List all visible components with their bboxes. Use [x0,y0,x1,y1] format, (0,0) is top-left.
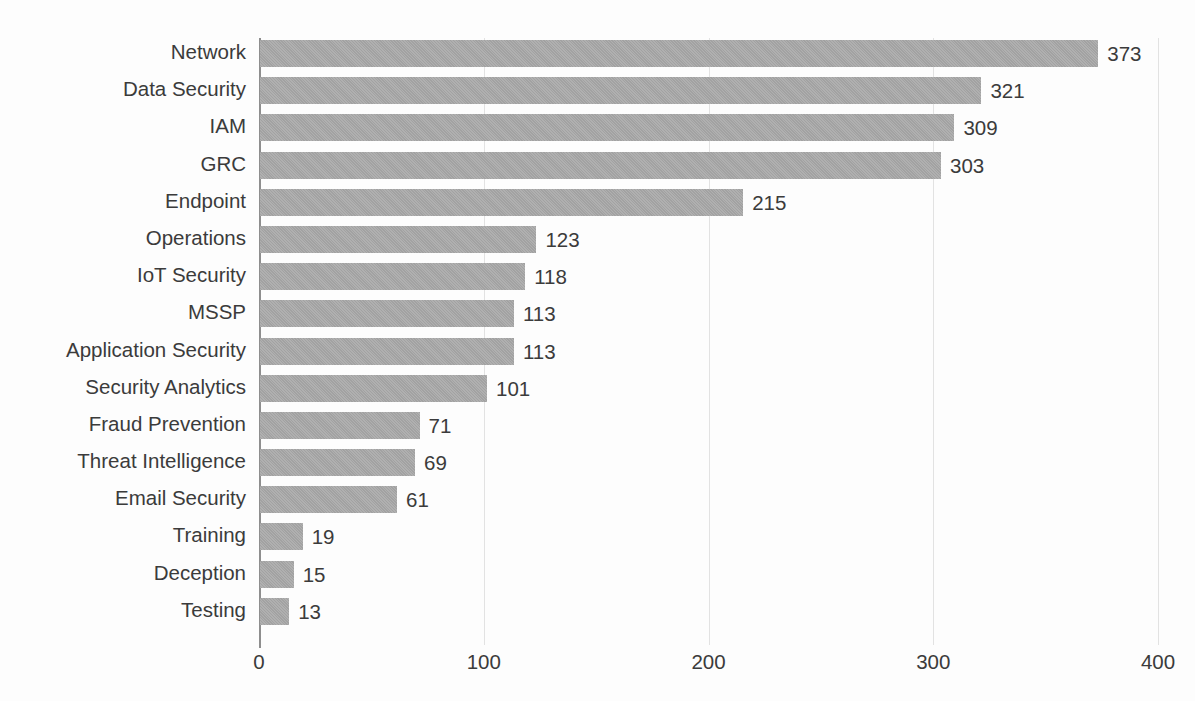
bar-value-label: 215 [743,189,786,216]
category-label: Fraud Prevention [89,410,260,437]
category-label: Endpoint [165,187,260,214]
bar-value-label: 303 [941,152,984,179]
bar[interactable] [260,523,303,550]
bar-row: Application Security113 [0,336,1195,373]
bar-value-label: 69 [415,449,447,476]
category-label: Testing [181,596,260,623]
bar-row: Training19 [0,521,1195,558]
bar-value-label: 113 [514,338,556,365]
bar-row: Testing13 [0,596,1195,633]
bar[interactable] [260,561,294,588]
bar-row: GRC303 [0,150,1195,187]
bar-row: IAM309 [0,112,1195,149]
bar-value-label: 118 [525,263,567,290]
bar-row: Security Analytics101 [0,373,1195,410]
bar-value-label: 71 [420,412,452,439]
bar-group: 373 [260,40,1142,67]
category-label: Email Security [115,484,260,511]
category-label: Threat Intelligence [77,447,260,474]
bar-value-label: 113 [514,300,556,327]
bar-row: Network373 [0,38,1195,75]
bar[interactable] [260,598,289,625]
category-label: Security Analytics [85,373,260,400]
bar-group: 123 [260,226,580,253]
bar-row: Email Security61 [0,484,1195,521]
bar[interactable] [260,189,743,216]
category-label: Operations [146,224,260,251]
bar[interactable] [260,375,487,402]
bar-group: 15 [260,561,326,588]
bar-row: Threat Intelligence69 [0,447,1195,484]
bar-value-label: 321 [981,77,1024,104]
bar-value-label: 373 [1098,40,1141,67]
category-label: IoT Security [137,261,260,288]
bar[interactable] [260,152,941,179]
bar-group: 118 [260,263,567,290]
bar-group: 19 [260,523,335,550]
bar-group: 69 [260,449,447,476]
bar-value-label: 19 [303,523,335,550]
x-tick-label: 400 [1141,650,1175,674]
bar-group: 113 [260,338,556,365]
bar-row: Deception15 [0,559,1195,596]
bar-row: IoT Security118 [0,261,1195,298]
bar[interactable] [260,412,420,439]
category-label: Deception [154,559,260,586]
bar[interactable] [260,77,981,104]
bar[interactable] [260,263,525,290]
bar-group: 101 [260,375,530,402]
category-label: Training [173,521,260,548]
bar-group: 13 [260,598,321,625]
bar-group: 215 [260,189,786,216]
bar-row: Endpoint215 [0,187,1195,224]
bar[interactable] [260,338,514,365]
bar-group: 113 [260,300,556,327]
bar-group: 61 [260,486,429,513]
bar-group: 303 [260,152,984,179]
bar-value-label: 123 [536,226,579,253]
bar-row: MSSP113 [0,298,1195,335]
bar-row: Data Security321 [0,75,1195,112]
category-label: Application Security [66,336,260,363]
category-label: IAM [210,112,260,139]
bar-value-label: 13 [289,598,321,625]
bar-chart: Network373Data Security321IAM309GRC303En… [0,0,1195,701]
x-tick-label: 300 [916,650,950,674]
bar-row: Fraud Prevention71 [0,410,1195,447]
bar-value-label: 61 [397,486,429,513]
bar-group: 321 [260,77,1025,104]
category-label: MSSP [188,298,260,325]
bar-value-label: 15 [294,561,326,588]
bar[interactable] [260,486,397,513]
bar-value-label: 101 [487,375,530,402]
x-tick-label: 0 [253,650,264,674]
x-tick-label: 200 [691,650,725,674]
bar-group: 71 [260,412,451,439]
bar[interactable] [260,40,1098,67]
bar[interactable] [260,114,954,141]
bar[interactable] [260,226,536,253]
bar-rows: Network373Data Security321IAM309GRC303En… [0,38,1195,633]
bar-value-label: 309 [954,114,997,141]
bar[interactable] [260,300,514,327]
bar-group: 309 [260,114,998,141]
category-label: GRC [200,150,260,177]
bar-row: Operations123 [0,224,1195,261]
category-label: Data Security [123,75,260,102]
x-tick-label: 100 [467,650,501,674]
category-label: Network [171,38,260,65]
bar[interactable] [260,449,415,476]
